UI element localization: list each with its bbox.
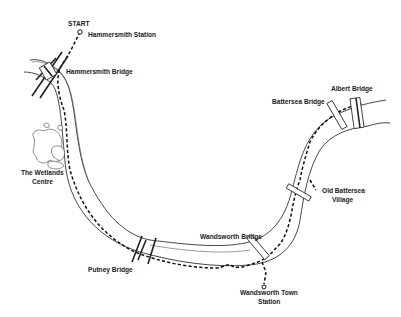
- hammersmith-bridge-label: Hammersmith Bridge: [66, 68, 133, 76]
- battersea-bridge-icon: [327, 101, 347, 130]
- hammersmith-station-label: Hammersmith Station: [88, 31, 156, 38]
- wetlands-label-line2: Centre: [32, 178, 53, 185]
- putney-bridge-label: Putney Bridge: [88, 266, 133, 274]
- battersea-bridge-label: Battersea Bridge: [272, 98, 325, 106]
- wetlands-lakes: [33, 123, 65, 169]
- wandsworth-town-station-label-line2: Station: [258, 298, 280, 305]
- start-label: START: [68, 20, 90, 27]
- wandsworth-town-station-label-line1: Wandsworth Town: [240, 289, 298, 296]
- albert-bridge-label: Albert Bridge: [331, 85, 373, 93]
- wandsworth-bridge-label: Wandsworth Bridge: [200, 233, 262, 241]
- station-spur: [262, 262, 266, 284]
- old-battersea-village-label-line1: Old Battersea: [322, 187, 365, 194]
- wetlands-label-line1: The Wetlands: [21, 169, 64, 176]
- hammersmith-station-marker: [78, 30, 82, 34]
- old-battersea-village-label-line2: Village: [332, 196, 353, 204]
- albert-bridge-icon: [350, 97, 364, 128]
- walking-route-map: START Hammersmith Station Hammersmith Br…: [0, 0, 401, 317]
- village-spur: [310, 180, 316, 190]
